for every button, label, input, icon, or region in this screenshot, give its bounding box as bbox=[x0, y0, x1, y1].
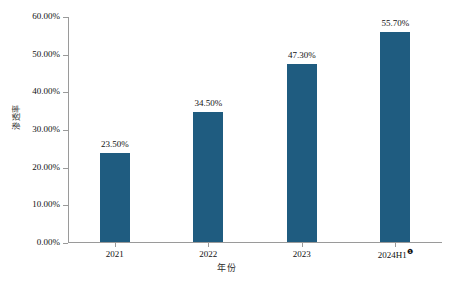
x-tick-label-2023: 2023 bbox=[262, 249, 342, 260]
y-tick-mark bbox=[63, 205, 68, 206]
footnote-marker-icon: ❶ bbox=[407, 248, 413, 255]
y-tick-label: 10.00% bbox=[32, 199, 60, 210]
category-label-text: 2021 bbox=[106, 249, 124, 259]
y-tick-label: 20.00% bbox=[32, 162, 60, 173]
x-tick-mark-0 bbox=[115, 243, 116, 247]
x-tick-mark-2 bbox=[302, 243, 303, 247]
y-tick-mark bbox=[63, 92, 68, 93]
y-tick-mark bbox=[63, 55, 68, 56]
bar-value-label-2021: 23.50% bbox=[75, 139, 155, 150]
bar-chart: 渗透率 0.00%10.00%20.00%30.00%40.00%50.00%6… bbox=[0, 0, 453, 281]
bar-2022 bbox=[193, 112, 223, 242]
x-tick-label-2024H1: 2024H1❶ bbox=[355, 249, 435, 261]
y-axis-title: 渗透率 bbox=[12, 87, 22, 147]
y-tick-label: 50.00% bbox=[32, 49, 60, 60]
y-tick-label: 60.00% bbox=[32, 11, 60, 22]
y-tick-mark bbox=[63, 17, 68, 18]
bar-value-label-2023: 47.30% bbox=[262, 50, 342, 61]
category-label-text: 2024H1 bbox=[378, 250, 407, 260]
category-label-text: 2022 bbox=[199, 249, 217, 259]
x-tick-mark-3 bbox=[395, 243, 396, 247]
bar-2023 bbox=[287, 64, 317, 242]
category-label-text: 2023 bbox=[293, 249, 311, 259]
x-tick-label-2021: 2021 bbox=[75, 249, 155, 260]
x-axis-title: 年份 bbox=[0, 261, 453, 274]
plot-area: 0.00%10.00%20.00%30.00%40.00%50.00%60.00… bbox=[68, 17, 442, 243]
y-axis-line bbox=[68, 17, 69, 243]
bar-value-label-2024H1: 55.70% bbox=[355, 18, 435, 29]
y-tick-mark bbox=[63, 168, 68, 169]
y-tick-mark bbox=[63, 243, 68, 244]
y-tick-label: 0.00% bbox=[37, 237, 60, 248]
y-tick-label: 40.00% bbox=[32, 86, 60, 97]
x-tick-mark-1 bbox=[208, 243, 209, 247]
y-tick-mark bbox=[63, 130, 68, 131]
x-axis-line bbox=[68, 242, 442, 243]
bar-2024H1 bbox=[380, 32, 410, 242]
y-tick-label: 30.00% bbox=[32, 124, 60, 135]
bar-2021 bbox=[100, 153, 130, 242]
x-tick-label-2022: 2022 bbox=[168, 249, 248, 260]
bar-value-label-2022: 34.50% bbox=[168, 98, 248, 109]
